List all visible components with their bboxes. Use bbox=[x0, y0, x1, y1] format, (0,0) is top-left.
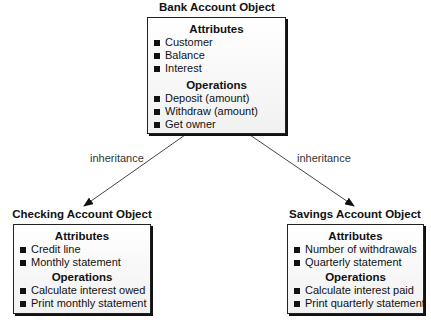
savings-account-title: Savings Account Object bbox=[280, 208, 430, 220]
attribute-item: Quarterly statement bbox=[294, 256, 417, 269]
operation-item: Calculate interest paid bbox=[294, 284, 417, 297]
bullet-icon bbox=[20, 301, 26, 307]
bullet-icon bbox=[154, 96, 160, 102]
operations-heading: Operations bbox=[20, 270, 144, 284]
inheritance-arrow-left bbox=[84, 135, 185, 206]
attributes-heading: Attributes bbox=[20, 229, 144, 243]
checking-account-title: Checking Account Object bbox=[6, 208, 158, 220]
attribute-item: Number of withdrawals bbox=[294, 243, 417, 256]
bullet-icon bbox=[154, 109, 160, 115]
operation-item: Get owner bbox=[154, 118, 279, 131]
attribute-item: Monthly statement bbox=[20, 256, 144, 269]
bullet-icon bbox=[294, 260, 300, 266]
bullet-icon bbox=[20, 247, 26, 253]
attributes-heading: Attributes bbox=[294, 229, 417, 243]
operation-item: Print quarterly statement bbox=[294, 297, 417, 310]
bullet-icon bbox=[154, 122, 160, 128]
bank-account-title: Bank Account Object bbox=[147, 1, 287, 13]
bullet-icon bbox=[294, 247, 300, 253]
operation-item: Deposit (amount) bbox=[154, 92, 279, 105]
attribute-item: Credit line bbox=[20, 243, 144, 256]
operation-item: Calculate interest owed bbox=[20, 284, 144, 297]
savings-account-box: Attributes Number of withdrawals Quarter… bbox=[287, 224, 424, 314]
operations-heading: Operations bbox=[154, 78, 279, 92]
inheritance-label-left: inheritance bbox=[90, 152, 144, 164]
bank-account-box: Attributes Customer Balance Interest Ope… bbox=[147, 17, 286, 134]
checking-account-box: Attributes Credit line Monthly statement… bbox=[13, 224, 151, 314]
attribute-item: Balance bbox=[154, 49, 279, 62]
attribute-item: Interest bbox=[154, 62, 279, 75]
bullet-icon bbox=[294, 301, 300, 307]
bullet-icon bbox=[20, 260, 26, 266]
attribute-item: Customer bbox=[154, 36, 279, 49]
operation-item: Print monthly statement bbox=[20, 297, 144, 310]
operation-item: Withdraw (amount) bbox=[154, 105, 279, 118]
bullet-icon bbox=[154, 40, 160, 46]
bullet-icon bbox=[294, 288, 300, 294]
operations-heading: Operations bbox=[294, 270, 417, 284]
attributes-heading: Attributes bbox=[154, 22, 279, 36]
inheritance-label-right: inheritance bbox=[297, 152, 351, 164]
bullet-icon bbox=[154, 53, 160, 59]
bullet-icon bbox=[20, 288, 26, 294]
inheritance-arrow-right bbox=[250, 135, 354, 206]
bullet-icon bbox=[154, 66, 160, 72]
